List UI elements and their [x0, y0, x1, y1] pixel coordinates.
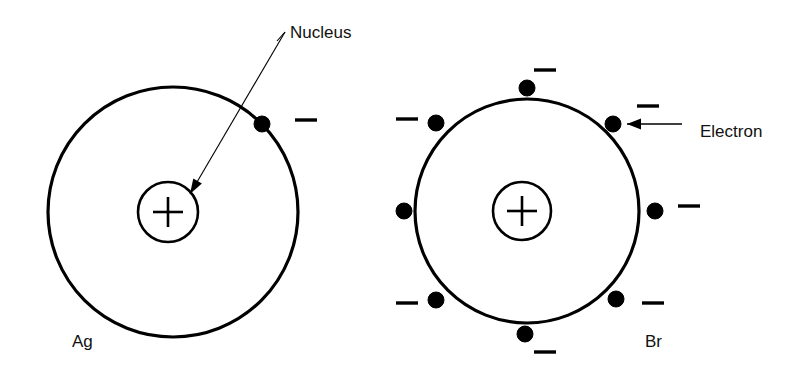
br-electron-sw	[428, 292, 444, 308]
callout-electron-label: Electron	[700, 122, 762, 141]
br-electron-e	[647, 203, 663, 219]
callout-nucleus-label: Nucleus	[290, 23, 351, 42]
atoms-layer: AgBr	[44, 70, 700, 352]
atom-br-symbol-label: Br	[645, 332, 662, 351]
atom-ag-symbol-label: Ag	[72, 332, 93, 351]
ag-electron-ne	[254, 116, 270, 132]
callout-electron: Electron	[627, 119, 762, 142]
callout-electron-arrowhead	[627, 119, 641, 130]
br-electron-n	[519, 80, 535, 96]
br-electron-nw	[428, 115, 444, 131]
atom-ag: Ag	[44, 83, 317, 351]
atom-br: Br	[396, 70, 700, 352]
br-electron-s	[517, 326, 533, 342]
br-electron-w	[396, 203, 412, 219]
br-electron-ne	[605, 116, 621, 132]
atom-diagram: AgBr NucleusElectron	[0, 0, 803, 377]
br-electron-se	[608, 291, 624, 307]
diagram-canvas: AgBr NucleusElectron	[0, 0, 803, 377]
